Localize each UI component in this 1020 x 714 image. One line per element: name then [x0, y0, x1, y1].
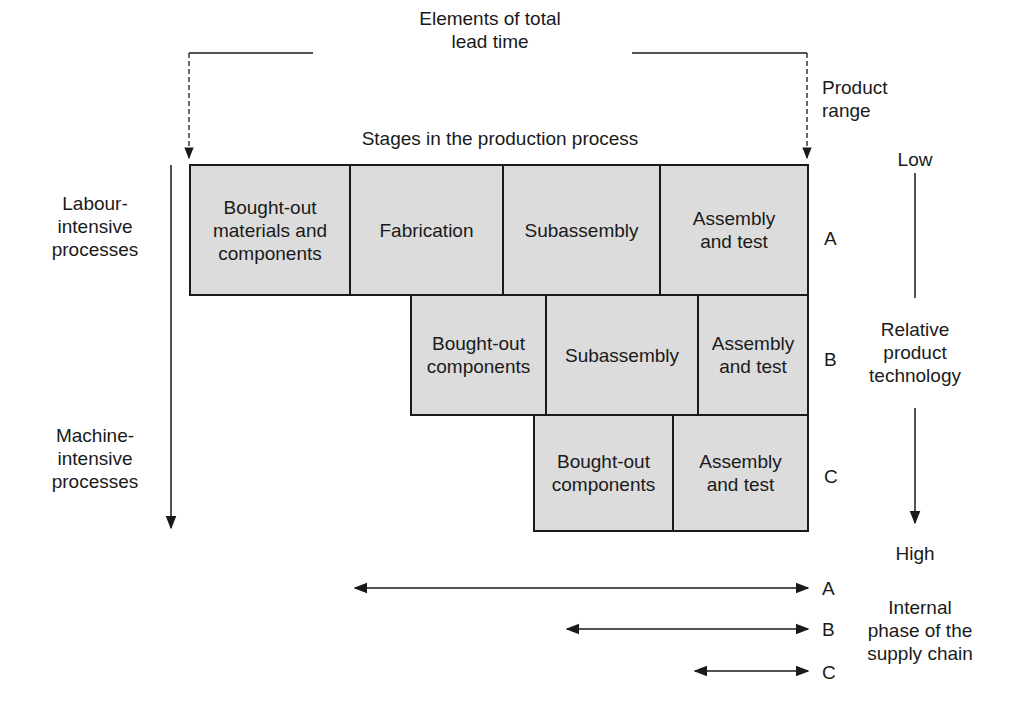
labour-intensive-label: Labour- intensive processes — [30, 192, 160, 261]
row-b-cell-assembly: Assembly and test — [697, 294, 809, 416]
supply-arrow-c-label: C — [822, 662, 836, 684]
product-range-label: Product range — [822, 76, 902, 122]
machine-intensive-label: Machine- intensive processes — [30, 424, 160, 493]
row-a-cell-assembly: Assembly and test — [659, 164, 809, 296]
supply-arrow-b-label: B — [822, 619, 835, 641]
tech-low-label: Low — [875, 148, 955, 171]
stages-label: Stages in the production process — [320, 127, 680, 150]
row-b-label: B — [824, 349, 837, 371]
row-c-cell-assembly: Assembly and test — [672, 414, 809, 532]
row-c-cell-bought-out: Bought-out components — [533, 414, 674, 532]
row-a-label: A — [824, 228, 837, 250]
total-lead-time-label: Elements of total lead time — [380, 7, 600, 53]
tech-high-label: High — [875, 542, 955, 565]
supply-chain-label: Internal phase of the supply chain — [845, 596, 995, 665]
row-a-cell-fabrication: Fabrication — [349, 164, 504, 296]
supply-arrow-a-label: A — [822, 578, 835, 600]
row-c-label: C — [824, 466, 838, 488]
row-b-cell-bought-out: Bought-out components — [410, 294, 547, 416]
relative-tech-label: Relative product technology — [850, 318, 980, 387]
row-a-cell-subassembly: Subassembly — [502, 164, 661, 296]
row-a-cell-bought-out: Bought-out materials and components — [189, 164, 351, 296]
row-b-cell-subassembly: Subassembly — [545, 294, 699, 416]
